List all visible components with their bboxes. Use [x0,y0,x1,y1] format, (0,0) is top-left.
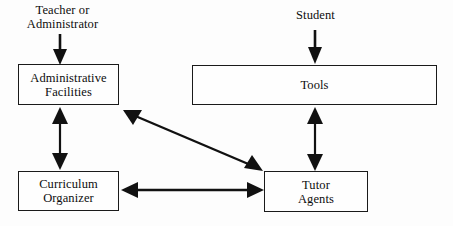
diagram-canvas: Teacher or Administrator Student Adminis… [0,0,453,226]
connector-administrative-facilities-to-tutor-agents [123,110,263,171]
actor-label-teacher: Teacher or Administrator [5,3,120,32]
connector-teacher-to-administrative-facilities [53,34,67,65]
node-tutor-agents[interactable]: Tutor Agents [264,171,368,212]
node-curriculum-organizer[interactable]: Curriculum Organizer [18,171,119,211]
node-label-administrative-facilities: Administrative Facilities [30,71,106,99]
node-administrative-facilities[interactable]: Administrative Facilities [18,64,119,105]
actor-label-student: Student [268,8,363,22]
connector-student-to-tools [308,30,322,64]
node-label-tutor-agents: Tutor Agents [298,178,334,206]
connector-administrative-facilities-to-curriculum-organizer [52,107,68,170]
node-label-curriculum-organizer: Curriculum Organizer [39,177,98,205]
node-label-tools: Tools [300,78,328,92]
node-tools[interactable]: Tools [192,65,437,105]
connector-tools-to-tutor-agents [307,107,323,171]
connector-curriculum-organizer-to-tutor-agents [121,182,264,198]
